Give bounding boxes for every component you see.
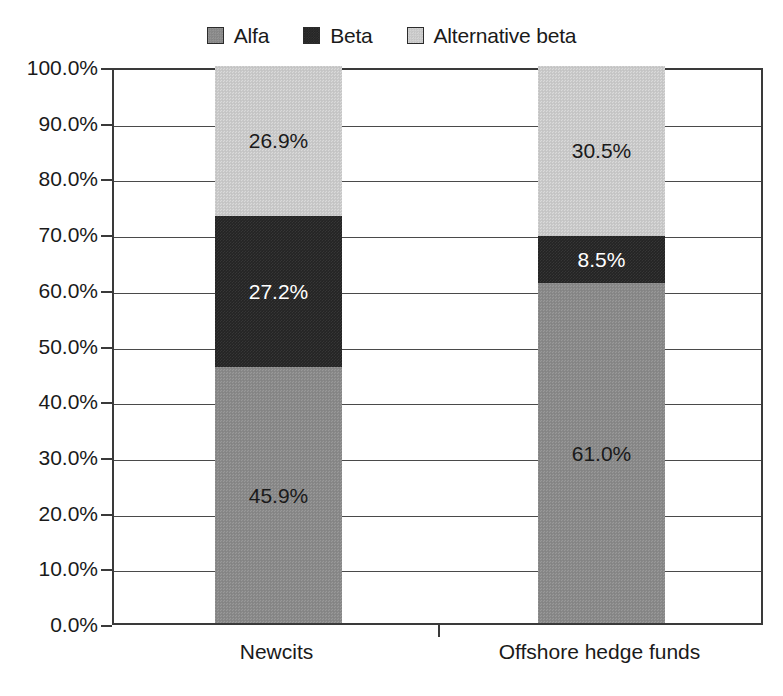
y-axis-tick-label: 20.0% — [0, 503, 98, 524]
y-axis-tick-label: 80.0% — [0, 168, 98, 189]
y-axis-tick-label: 0.0% — [0, 614, 98, 635]
y-axis-tick-label: 30.0% — [0, 447, 98, 468]
bar-segment[interactable]: 61.0% — [538, 283, 665, 623]
stacked-bar[interactable]: 26.9%27.2%45.9% — [215, 66, 342, 623]
y-axis-tick-mark — [101, 68, 112, 70]
bar-segment[interactable]: 8.5% — [538, 236, 665, 283]
y-axis-tick-mark — [101, 179, 112, 181]
x-axis-category-label: Newcits — [107, 640, 447, 664]
y-axis-tick-label: 60.0% — [0, 280, 98, 301]
y-axis-tick-label: 70.0% — [0, 224, 98, 245]
legend-swatch-beta — [303, 27, 320, 44]
legend-label-beta: Beta — [330, 25, 372, 46]
stacked-bar[interactable]: 30.5%8.5%61.0% — [538, 66, 665, 623]
y-axis-tick-label: 100.0% — [0, 57, 98, 78]
y-axis-tick-mark — [101, 514, 112, 516]
y-axis-tick-label: 90.0% — [0, 113, 98, 134]
chart-legend: Alfa Beta Alternative beta — [0, 18, 783, 52]
bar-segment-value-label: 61.0% — [572, 443, 632, 464]
y-axis-tick-mark — [101, 291, 112, 293]
y-axis-tick-label: 10.0% — [0, 558, 98, 579]
bar-segment[interactable]: 45.9% — [215, 367, 342, 623]
x-axis-tick-mark — [438, 625, 440, 637]
bar-segment-value-label: 30.5% — [572, 140, 632, 161]
y-axis-tick-mark — [101, 402, 112, 404]
legend-swatch-alternative-beta — [407, 27, 424, 44]
y-axis-tick-mark — [101, 124, 112, 126]
legend-label-alternative-beta: Alternative beta — [434, 25, 577, 46]
legend-swatch-alfa — [207, 27, 224, 44]
bar-segment[interactable]: 27.2% — [215, 216, 342, 368]
y-axis-tick-label: 50.0% — [0, 336, 98, 357]
legend-item-alfa: Alfa — [207, 25, 269, 46]
legend-item-alternative-beta: Alternative beta — [407, 25, 577, 46]
bar-segment-value-label: 27.2% — [249, 281, 309, 302]
bar-segment[interactable]: 30.5% — [538, 66, 665, 236]
y-axis-tick-mark — [101, 347, 112, 349]
y-axis-tick-mark — [101, 235, 112, 237]
legend-label-alfa: Alfa — [234, 25, 269, 46]
legend-item-beta: Beta — [303, 25, 372, 46]
y-axis-tick-mark — [101, 458, 112, 460]
bar-segment-value-label: 8.5% — [578, 249, 626, 270]
stacked-bar-chart: Alfa Beta Alternative beta 100.0%90.0%80… — [0, 0, 783, 696]
bar-segment-value-label: 26.9% — [249, 130, 309, 151]
y-axis-tick-mark — [101, 625, 112, 627]
plot-area: 26.9%27.2%45.9%30.5%8.5%61.0% — [112, 68, 763, 625]
bar-segment-value-label: 45.9% — [249, 485, 309, 506]
bar-segment[interactable]: 26.9% — [215, 66, 342, 216]
x-axis-category-label: Offshore hedge funds — [430, 640, 770, 664]
y-axis-tick-mark — [101, 569, 112, 571]
y-axis: 100.0%90.0%80.0%70.0%60.0%50.0%40.0%30.0… — [0, 0, 100, 696]
y-axis-tick-label: 40.0% — [0, 391, 98, 412]
